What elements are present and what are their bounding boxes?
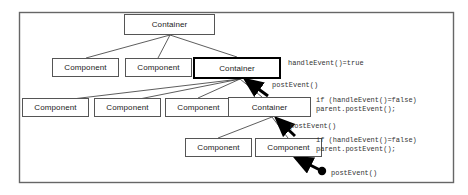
node-row4-component-2[interactable]: Component — [255, 138, 322, 157]
node-row3-component-1[interactable]: Component — [22, 98, 89, 117]
node-row2-component-2[interactable]: Component — [125, 58, 192, 77]
node-row3-component-2[interactable]: Component — [94, 98, 161, 117]
annotation-if-block-1: if (handleEvent()=false) parent.postEven… — [316, 96, 417, 114]
node-row3-container[interactable]: Container — [228, 97, 311, 117]
node-row3-component-3[interactable]: Component — [165, 98, 232, 117]
diagram-canvas: Container Component Component Container … — [0, 0, 468, 195]
annotation-post-event-1: postEvent() — [272, 81, 318, 90]
node-row2-container[interactable]: Container — [193, 57, 281, 79]
event-source-dot — [318, 167, 326, 175]
node-row2-component-1[interactable]: Component — [52, 58, 119, 77]
arrow-postevent-to-container2 — [246, 80, 268, 96]
node-row4-component-1[interactable]: Component — [185, 138, 252, 157]
annotation-post-event-3: postEvent() — [331, 169, 377, 178]
arrow-postevent-source — [296, 158, 320, 170]
edge-root-to-row2 — [86, 35, 237, 58]
annotation-if-block-2: if (handleEvent()=false) parent.postEven… — [316, 136, 417, 154]
node-root-container[interactable]: Container — [124, 14, 215, 35]
annotation-post-event-2: postEvent() — [290, 122, 336, 131]
annotation-handle-event-true: handleEvent()=true — [288, 59, 364, 68]
